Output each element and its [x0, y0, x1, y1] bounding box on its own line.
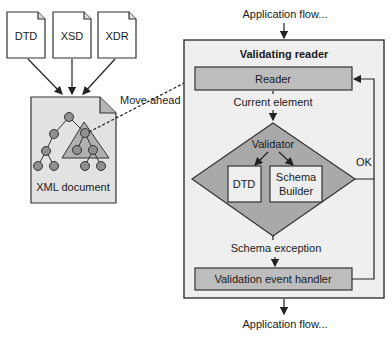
move-ahead-label: Move ahead [120, 94, 181, 106]
xml-document-label: XML document [36, 181, 110, 193]
event-handler-label: Validation event handler [214, 273, 332, 285]
schema-builder-label-line2: Builder [279, 185, 314, 197]
arrow-dtd-to-xml [28, 59, 62, 94]
xml-document: XML document [31, 97, 116, 203]
schema-exception-label: Schema exception [231, 242, 322, 254]
current-element-label: Current element [234, 96, 313, 108]
schema-doc-dtd: DTD [7, 12, 45, 58]
schema-label-dtd: DTD [15, 30, 38, 42]
schema-doc-xsd: XSD [53, 12, 91, 58]
app-flow-bottom-label: Application flow... [243, 318, 328, 330]
schema-builder-label-line1: Schema [276, 171, 317, 183]
validator-label: Validator [252, 138, 295, 150]
ok-label: OK [356, 156, 373, 168]
validating-reader-title: Validating reader [240, 48, 329, 60]
schema-doc-xdr: XDR [98, 12, 136, 58]
app-flow-top-label: Application flow... [243, 8, 328, 20]
schema-label-xdr: XDR [105, 30, 128, 42]
arrow-xdr-to-xml [83, 59, 115, 94]
dtd-validator-label: DTD [233, 178, 256, 190]
schema-label-xsd: XSD [61, 30, 84, 42]
validating-reader-diagram: DTD XSD XDR [0, 0, 392, 340]
reader-label: Reader [255, 73, 291, 85]
